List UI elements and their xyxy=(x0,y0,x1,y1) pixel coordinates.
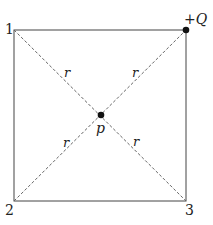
distance-label-lower-right: r xyxy=(133,134,140,149)
square-charge-diagram: 1 2 3 +Q p r r r r xyxy=(0,0,213,225)
charge-label: +Q xyxy=(184,11,208,27)
corner-label-1: 1 xyxy=(5,21,14,37)
distance-label-lower-left: r xyxy=(63,135,70,150)
point-p-dot xyxy=(98,112,105,119)
distance-label-upper-left: r xyxy=(64,65,71,80)
point-p-label: p xyxy=(96,120,105,136)
charge-dot xyxy=(183,27,190,34)
distance-label-upper-right: r xyxy=(132,65,139,80)
corner-label-3: 3 xyxy=(185,202,194,218)
corner-label-2: 2 xyxy=(5,202,14,218)
